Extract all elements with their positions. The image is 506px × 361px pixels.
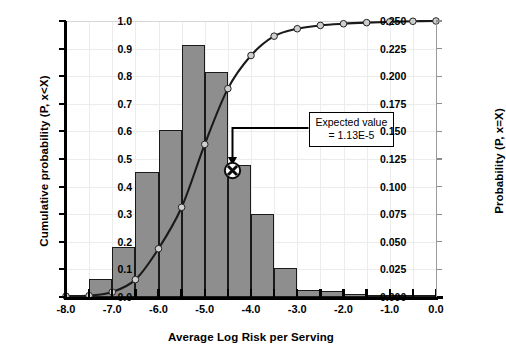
x-axis-title: Average Log Risk per Serving: [66, 331, 436, 343]
y-axis-right-tick-label: 0.250: [380, 16, 426, 27]
chart-figure: Cumulative probability (P, x<X) Probabil…: [0, 0, 506, 361]
y-axis-left-tick-label: 0.4: [92, 182, 132, 193]
x-axis-tick-label: -3.0: [272, 303, 322, 315]
y-axis-left-tick-label: 0.7: [92, 99, 132, 110]
expected-value-line1: Expected value: [316, 116, 388, 129]
y-axis-right-tick-label: 0.150: [380, 126, 426, 137]
y-axis-left-title: Cumulative probability (P, x<X): [38, 31, 50, 291]
x-axis-tick-label: -7.0: [87, 303, 137, 315]
y-axis-left-tick-label: 0.6: [92, 126, 132, 137]
y-axis-left-tick-label: 0.0: [92, 292, 132, 303]
cumulative-data-point: [340, 20, 347, 27]
x-axis-tick-label: -6.0: [134, 303, 184, 315]
cumulative-data-point: [178, 204, 185, 211]
cumulative-data-point: [225, 85, 232, 92]
cumulative-data-point: [317, 22, 324, 29]
y-axis-left-tick-label: 0.9: [92, 44, 132, 55]
y-axis-right-tick-label: 0.175: [380, 99, 426, 110]
x-axis-tick-label: -2.0: [319, 303, 369, 315]
y-axis-right-title: Probability (P, x=X): [493, 31, 505, 291]
y-axis-left-tick-label: 0.5: [92, 154, 132, 165]
cumulative-data-point: [271, 33, 278, 40]
cumulative-data-point: [248, 52, 255, 59]
y-axis-right-tick-label: 0.100: [380, 182, 426, 193]
y-axis-left-tick-label: 0.3: [92, 209, 132, 220]
x-axis-tick-label: -4.0: [226, 303, 276, 315]
y-axis-right-tick-label: 0.075: [380, 209, 426, 220]
y-axis-right-tick-label: 0.200: [380, 71, 426, 82]
cumulative-data-point: [363, 19, 370, 26]
y-axis-right-tick-label: 0.025: [380, 264, 426, 275]
y-axis-left-tick-label: 0.2: [92, 237, 132, 248]
x-axis-tick-label: -8.0: [41, 303, 91, 315]
plot-frame-right: [436, 21, 437, 298]
x-axis-tick-label: 0.0: [411, 303, 461, 315]
expected-value-line2: = 1.13E-5: [316, 129, 388, 142]
x-axis-tick-label: -1.0: [365, 303, 415, 315]
x-axis-tick-label: -5.0: [180, 303, 230, 315]
cumulative-data-point: [201, 141, 208, 148]
y-axis-right-tick-label: 0.050: [380, 237, 426, 248]
expected-value-marker-icon: [223, 161, 242, 180]
y-axis-right-tick-label: 0.125: [380, 154, 426, 165]
y-axis-right-tick-label: 0.000: [380, 292, 426, 303]
y-axis-left-line: [64, 21, 67, 298]
y-axis-left-tick-label: 0.8: [92, 71, 132, 82]
y-axis-right-tick-label: 0.225: [380, 44, 426, 55]
cumulative-data-point: [155, 245, 162, 252]
y-axis-left-tick-label: 0.1: [92, 264, 132, 275]
y-axis-left-tick-label: 1.0: [92, 16, 132, 27]
cumulative-data-point: [132, 276, 139, 283]
cumulative-data-point: [294, 25, 301, 32]
